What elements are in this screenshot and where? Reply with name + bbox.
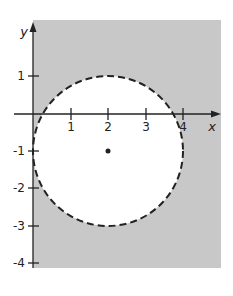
y-tick-label: -4 <box>13 256 25 270</box>
x-tick-label: 2 <box>104 120 112 134</box>
x-tick-label: 1 <box>67 120 75 134</box>
y-tick-label: -3 <box>13 219 25 233</box>
x-tick-label: 4 <box>179 120 187 134</box>
y-tick-label: -1 <box>13 144 25 158</box>
center-point <box>106 149 111 154</box>
circle-region-diagram: 1 2 3 4 x 1 -1 -2 -3 -4 y <box>0 0 233 296</box>
x-axis-label: x <box>207 119 216 134</box>
y-tick-label: 1 <box>17 69 25 83</box>
y-tick-label: -2 <box>13 181 25 195</box>
x-tick-label: 3 <box>142 120 150 134</box>
y-axis-label: y <box>19 24 28 39</box>
shaded-region <box>33 20 221 268</box>
